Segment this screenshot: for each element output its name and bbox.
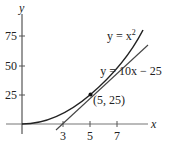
x-tick-label-3: 3 [60, 129, 66, 143]
tangent-label: y = 10x − 25 [100, 64, 162, 78]
x-tick-label-5: 5 [87, 129, 93, 143]
tangent-point [89, 93, 93, 97]
point-label: (5, 25) [93, 93, 125, 107]
chart: 3 5 7 25 50 75 x y y = x2 y = 10x − 25 (… [0, 0, 183, 144]
y-tick-label-50: 50 [5, 59, 17, 73]
y-tick-label-75: 75 [5, 29, 17, 43]
x-axis-label: x [150, 117, 157, 131]
y-tick-label-25: 25 [5, 88, 17, 102]
parabola-label: y = x2 [107, 28, 136, 43]
x-tick-label-7: 7 [114, 129, 120, 143]
tangent-line [56, 45, 148, 130]
y-axis-label: y [18, 1, 25, 15]
